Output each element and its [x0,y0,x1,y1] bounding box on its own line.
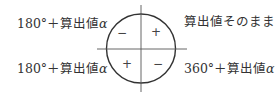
label-text: 180°＋算出値 [17,16,99,31]
label-top-right: 算出値そのまま [184,15,275,29]
sign-upper-left: − [117,26,127,40]
label-text: 算出値そのまま [184,14,275,29]
label-text: 360°＋算出値 [184,61,266,76]
label-text: 180°＋算出値 [17,61,99,76]
sign-upper-right: + [151,25,161,39]
label-top-left: 180°＋算出値α [17,17,108,31]
alpha-symbol: α [99,61,107,76]
label-bottom-left: 180°＋算出値α [17,62,108,76]
alpha-symbol: α [99,16,107,31]
label-bottom-right: 360°＋算出値α [184,62,275,76]
alpha-symbol: α [266,61,274,76]
sign-lower-left: + [122,57,132,71]
sign-lower-right: − [153,57,163,71]
